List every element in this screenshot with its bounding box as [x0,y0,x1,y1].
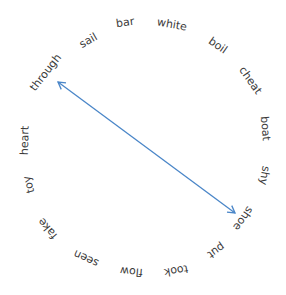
double-headed-arrow [0,0,286,295]
word-label-flow: flow [119,265,143,278]
word-label-heart: heart [18,125,30,155]
arrow-line [58,82,235,213]
word-label-bar: bar [115,15,135,28]
word-label-took: took [163,262,189,277]
word-circle-diagram: barwhiteboilcheatboatshyshoeputtookflows… [0,0,286,295]
word-label-shy: shy [257,165,271,186]
word-label-boat: boat [258,115,271,141]
